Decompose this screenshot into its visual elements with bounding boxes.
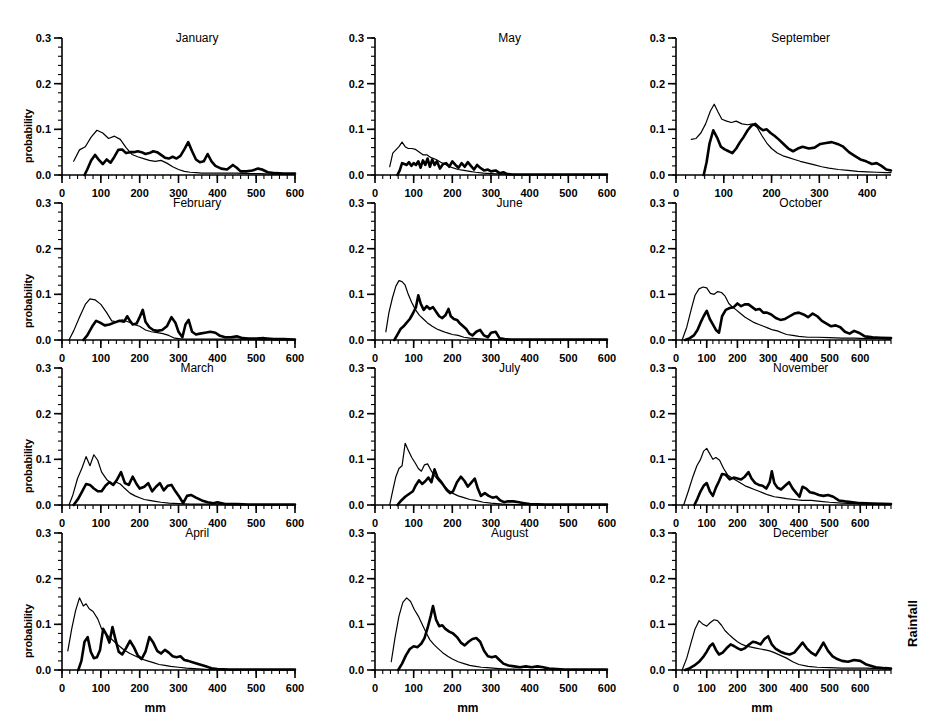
x-tick-label: 400 — [208, 682, 226, 694]
y-tick-label: 0.1 — [349, 123, 364, 135]
y-tick-label: 0.2 — [36, 573, 51, 585]
y-tick-label: 0.2 — [36, 78, 51, 90]
panel-title: June — [497, 196, 523, 210]
y-axis-title: probability — [22, 439, 34, 493]
series-thick-curve — [397, 469, 607, 505]
y-tick-label: 0.3 — [349, 362, 364, 374]
y-tick-label: 0.2 — [349, 573, 364, 585]
y-tick-label: 0.1 — [36, 618, 51, 630]
series-thin-curve — [74, 130, 295, 174]
x-tick-label: 500 — [559, 682, 577, 694]
x-tick-label: 300 — [169, 682, 187, 694]
y-tick-label: 0.1 — [349, 288, 364, 300]
y-tick-label: 0.3 — [650, 32, 665, 44]
series-thin-curve — [69, 455, 295, 505]
panel-title: July — [499, 361, 520, 375]
x-tick-label: 500 — [247, 682, 265, 694]
x-axis-title: mm — [457, 701, 478, 715]
series-thin-curve — [386, 281, 607, 340]
y-tick-label: 0.0 — [36, 169, 51, 181]
x-tick-label: 0 — [673, 682, 679, 694]
y-axis-title: probability — [22, 274, 34, 328]
y-tick-label: 0.0 — [349, 169, 364, 181]
x-tick-label: 500 — [820, 682, 838, 694]
y-tick-label: 0.3 — [36, 527, 51, 539]
y-tick-label: 0.3 — [36, 362, 51, 374]
y-tick-label: 0.2 — [650, 408, 665, 420]
y-tick-label: 0.3 — [349, 197, 364, 209]
panel-title: October — [779, 196, 822, 210]
x-tick-label: 200 — [728, 682, 746, 694]
x-tick-label: 400 — [790, 682, 808, 694]
panel-april: 01002003004005006000.00.10.20.3Aprilmmpr… — [16, 519, 309, 714]
y-tick-label: 0.2 — [349, 408, 364, 420]
series-thick-curve — [78, 627, 295, 670]
x-tick-label: 200 — [130, 682, 148, 694]
y-tick-label: 0.0 — [650, 334, 665, 346]
series-thin-curve — [390, 142, 607, 174]
y-tick-label: 0.3 — [36, 32, 51, 44]
y-tick-label: 0.2 — [36, 243, 51, 255]
panel-title: September — [771, 31, 830, 45]
x-tick-label: 0 — [59, 682, 65, 694]
y-tick-label: 0.0 — [650, 499, 665, 511]
y-tick-label: 0.1 — [349, 453, 364, 465]
y-tick-label: 0.2 — [650, 243, 665, 255]
panel-december: 01002003004005006000.00.10.20.3Decemberm… — [630, 519, 905, 714]
y-tick-label: 0.1 — [650, 123, 665, 135]
x-tick-label: 100 — [698, 682, 716, 694]
x-tick-label: 600 — [598, 682, 616, 694]
y-tick-label: 0.2 — [36, 408, 51, 420]
x-tick-label: 300 — [759, 682, 777, 694]
series-thick-curve — [394, 295, 607, 340]
panel-title: January — [176, 31, 219, 45]
x-axis-title: mm — [145, 701, 166, 715]
panel-title: May — [498, 31, 521, 45]
panel-august: 01002003004005006000.00.10.20.3Augustmm — [329, 519, 621, 714]
y-tick-label: 0.1 — [349, 618, 364, 630]
y-tick-label: 0.0 — [650, 664, 665, 676]
y-tick-label: 0.2 — [349, 243, 364, 255]
x-tick-label: 400 — [520, 682, 538, 694]
y-tick-label: 0.3 — [36, 197, 51, 209]
x-axis-title: mm — [751, 701, 772, 715]
series-thick-curve — [85, 142, 295, 175]
y-tick-label: 0.0 — [650, 169, 665, 181]
y-tick-label: 0.3 — [349, 32, 364, 44]
panel-title: March — [180, 361, 213, 375]
y-tick-label: 0.1 — [36, 288, 51, 300]
y-tick-label: 0.0 — [36, 334, 51, 346]
series-thick-curve — [704, 124, 891, 175]
y-tick-label: 0.0 — [349, 499, 364, 511]
series-thick-curve — [685, 636, 891, 670]
y-tick-label: 0.2 — [650, 573, 665, 585]
series-thin-curve — [684, 448, 891, 505]
x-tick-label: 200 — [443, 682, 461, 694]
panel-title: November — [773, 361, 828, 375]
series-thick-curve — [397, 159, 607, 175]
y-tick-label: 0.1 — [650, 618, 665, 630]
y-axis-title: probability — [22, 109, 34, 163]
y-tick-label: 0.0 — [349, 334, 364, 346]
y-tick-label: 0.2 — [349, 78, 364, 90]
series-thin-curve — [390, 443, 607, 505]
series-thick-curve — [83, 310, 295, 340]
panel-title: December — [773, 526, 828, 540]
y-tick-label: 0.3 — [349, 527, 364, 539]
panel-title: August — [491, 526, 529, 540]
panel-title: February — [173, 196, 221, 210]
y-tick-label: 0.0 — [349, 664, 364, 676]
x-tick-label: 100 — [92, 682, 110, 694]
y-tick-label: 0.3 — [650, 527, 665, 539]
y-tick-label: 0.0 — [36, 499, 51, 511]
x-tick-label: 300 — [482, 682, 500, 694]
x-tick-label: 600 — [286, 682, 304, 694]
y-tick-label: 0.1 — [36, 453, 51, 465]
y-axis-title: probability — [22, 604, 34, 658]
y-tick-label: 0.3 — [650, 197, 665, 209]
y-tick-label: 0.1 — [650, 288, 665, 300]
figure-rainfall-axis-label: Rainfall — [905, 600, 920, 647]
y-tick-label: 0.0 — [36, 664, 51, 676]
y-tick-label: 0.1 — [650, 453, 665, 465]
y-tick-label: 0.2 — [650, 78, 665, 90]
